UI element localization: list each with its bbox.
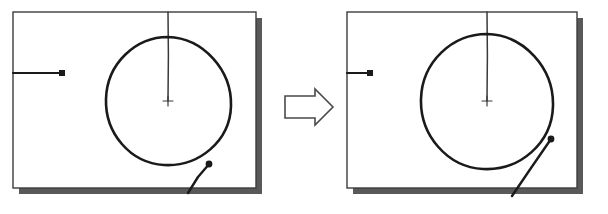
tangent-point-dot[interactable] [548, 136, 555, 143]
figure-root [0, 0, 608, 214]
tangent-point-dot[interactable] [206, 161, 213, 168]
sketch-panel-before[interactable] [13, 12, 262, 194]
sketch-figure [0, 0, 608, 214]
sketch-panel-after[interactable] [347, 12, 583, 196]
arrow-right-outline-icon [285, 89, 333, 125]
leader-node-dot[interactable] [367, 70, 373, 76]
panel-face[interactable] [13, 12, 256, 188]
leader-node-dot[interactable] [59, 70, 65, 76]
